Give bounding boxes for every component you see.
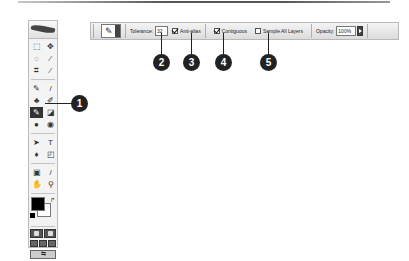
- callout-leader: [268, 33, 269, 55]
- crop-tool[interactable]: ⌗: [30, 65, 43, 76]
- standard-mode-button[interactable]: [30, 229, 43, 238]
- options-bar: ✎ Tolerance: 32 Anti-alias Contiguous Sa…: [90, 22, 399, 40]
- brush-tool[interactable]: /: [44, 83, 57, 94]
- move-tool[interactable]: ✥: [44, 41, 57, 52]
- callout-5: 5: [260, 54, 277, 71]
- feather-logo-icon: [31, 24, 56, 35]
- toolbox: ⬚ ✥ ◌ ⁄ ⌗ ⁄ ✎ / ♣ ✐ ✎ ◪ ● ◉ ➤ T ♦ ◰ ▣ / …: [28, 20, 58, 248]
- healing-brush-tool[interactable]: ✎: [30, 83, 43, 94]
- screen-mode-row: [29, 239, 57, 248]
- opacity-label: Opacity:: [316, 28, 334, 34]
- separator: [205, 24, 206, 38]
- opacity-slider-button[interactable]: [357, 26, 363, 36]
- chevron-down-icon: [115, 25, 120, 37]
- tools-grid: ▣ / ✋ ⚲: [29, 165, 57, 192]
- tools-grid: ➤ T ♦ ◰: [29, 135, 57, 162]
- tool-preset-picker[interactable]: ✎: [101, 24, 121, 38]
- standard-screen-mode-button[interactable]: [30, 240, 38, 247]
- divider: [31, 163, 55, 164]
- blur-tool[interactable]: ●: [30, 119, 43, 130]
- callout-leader: [223, 33, 224, 55]
- callout-leader: [191, 33, 192, 55]
- divider: [31, 133, 55, 134]
- foreground-color-swatch[interactable]: [31, 197, 45, 211]
- default-colors-icon[interactable]: [30, 213, 35, 218]
- quick-mask-mode-button[interactable]: [44, 229, 57, 238]
- separator: [367, 24, 368, 38]
- opacity-input[interactable]: 100%: [336, 26, 356, 36]
- shape-tool[interactable]: ◰: [44, 149, 57, 160]
- swap-colors-icon[interactable]: ↱: [50, 196, 55, 203]
- full-screen-menu-mode-button[interactable]: [39, 240, 47, 247]
- tools-grid: ⬚ ✥ ◌ ⁄ ⌗ ⁄: [29, 39, 57, 78]
- anti-alias-checkbox[interactable]: [172, 28, 178, 34]
- callout-3: 3: [183, 54, 200, 71]
- divider: [31, 226, 55, 227]
- zoom-tool[interactable]: ⚲: [44, 179, 57, 190]
- separator: [125, 24, 126, 38]
- history-brush-tool[interactable]: ✐: [44, 95, 57, 106]
- pen-tool[interactable]: ♦: [30, 149, 43, 160]
- clone-stamp-tool[interactable]: ♣: [30, 95, 43, 106]
- callout-2: 2: [153, 54, 170, 71]
- marquee-tool[interactable]: ⬚: [30, 41, 43, 52]
- jump-to-imageready-button[interactable]: ⇆: [30, 250, 56, 259]
- callout-leader: [161, 33, 162, 55]
- contiguous-label: Contiguous: [222, 28, 247, 34]
- path-selection-tool[interactable]: ➤: [30, 137, 43, 148]
- sample-all-layers-checkbox[interactable]: [255, 28, 261, 34]
- color-swatches: ↱: [31, 197, 55, 223]
- divider: [31, 193, 55, 194]
- separator: [311, 24, 312, 38]
- notes-tool[interactable]: ▣: [30, 167, 43, 178]
- slice-tool[interactable]: ⁄: [44, 65, 57, 76]
- hand-tool[interactable]: ✋: [30, 179, 43, 190]
- eraser-tool-icon: ✎: [102, 25, 115, 37]
- edit-mode-row: [29, 228, 57, 239]
- options-bar-grip[interactable]: [93, 24, 97, 38]
- gradient-tool[interactable]: ◪: [44, 107, 57, 118]
- tools-grid: ✎ / ♣ ✐ ✎ ◪ ● ◉: [29, 81, 57, 132]
- eyedropper-tool[interactable]: /: [44, 167, 57, 178]
- divider: [31, 79, 55, 80]
- toolbox-header[interactable]: [29, 21, 57, 39]
- callout-4: 4: [215, 54, 232, 71]
- callout-leader: [45, 103, 72, 104]
- contiguous-checkbox[interactable]: [214, 28, 220, 34]
- tolerance-label: Tolerance:: [130, 28, 153, 34]
- dodge-tool[interactable]: ◉: [44, 119, 57, 130]
- lasso-tool[interactable]: ◌: [30, 53, 43, 64]
- top-rule: [18, 1, 390, 3]
- eraser-tool[interactable]: ✎: [30, 107, 43, 118]
- magic-wand-tool[interactable]: ⁄: [44, 53, 57, 64]
- type-tool[interactable]: T: [44, 137, 57, 148]
- full-screen-mode-button[interactable]: [48, 240, 56, 247]
- callout-1: 1: [71, 95, 88, 112]
